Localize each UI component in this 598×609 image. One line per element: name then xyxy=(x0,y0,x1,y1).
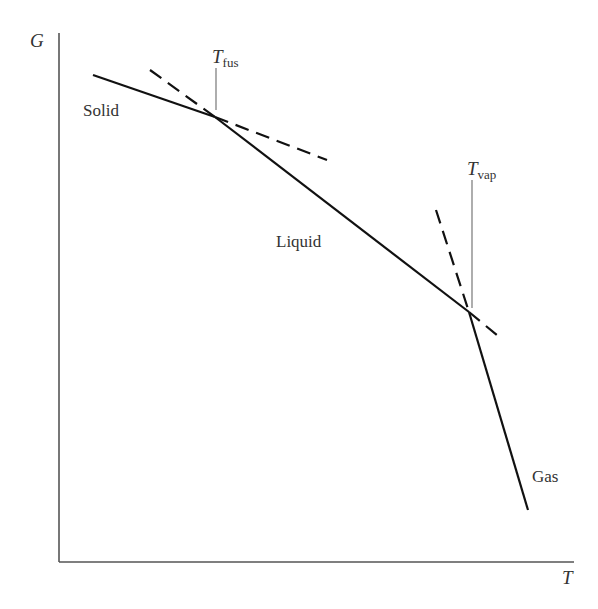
y-axis-label: G xyxy=(30,30,44,51)
vap-marker-label: Tvap xyxy=(467,158,496,182)
gas-label: Gas xyxy=(532,467,558,486)
x-axis-label: T xyxy=(562,567,574,588)
solid-extension-dashed xyxy=(215,117,327,160)
fus-sub: fus xyxy=(223,55,239,70)
solid-label: Solid xyxy=(83,101,119,120)
vap-sub: vap xyxy=(478,167,497,182)
gas-extension-dashed xyxy=(436,210,469,312)
fus-marker-label: Tfus xyxy=(212,46,238,70)
diagram-svg: G T Tfus Tvap Solid Liquid Gas xyxy=(0,0,598,609)
liquid-label: Liquid xyxy=(276,232,322,251)
gas-line xyxy=(469,312,528,510)
liquid-extension-dashed xyxy=(150,70,215,117)
liquid-line xyxy=(215,117,469,312)
gibbs-phase-diagram: G T Tfus Tvap Solid Liquid Gas xyxy=(0,0,598,609)
